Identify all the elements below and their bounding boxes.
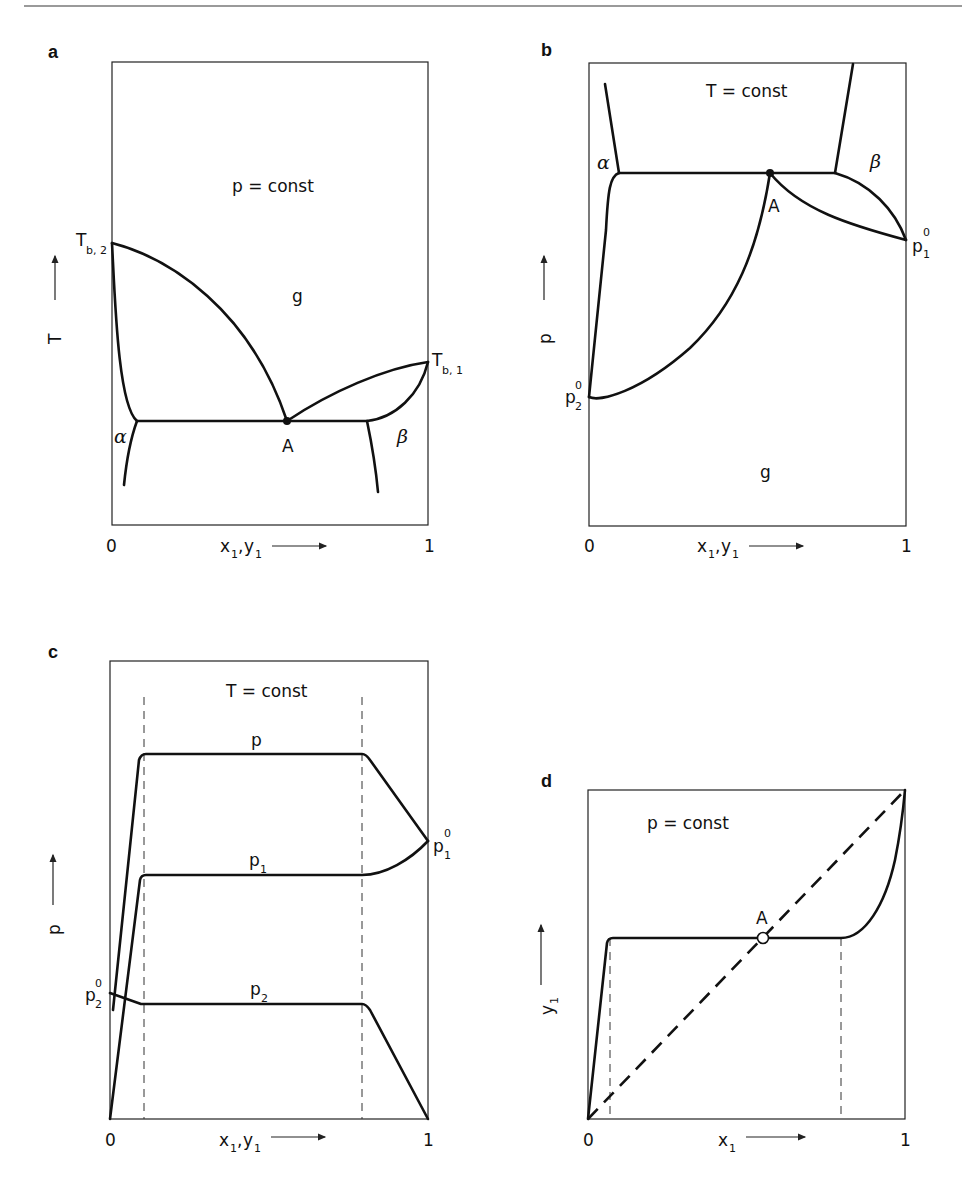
panel-letter-a: a bbox=[48, 42, 59, 62]
panel-letter-d: d bbox=[541, 771, 552, 791]
x-axis-sub-b: 1 bbox=[708, 548, 715, 561]
p1-zero-sup-c: 0 bbox=[444, 827, 451, 840]
panel-a: a p = const g A α β T b, 2 T b, 1 T 0 1 … bbox=[45, 42, 463, 561]
x-axis-label-a: x bbox=[220, 536, 230, 556]
x-axis-label-y-c: y bbox=[243, 1130, 253, 1150]
x-tick-1-d: 1 bbox=[900, 1130, 911, 1150]
condition-label-b: T = const bbox=[705, 81, 788, 101]
tb1-sub: b, 1 bbox=[442, 364, 463, 377]
x-axis-comma-c: , bbox=[237, 1130, 242, 1150]
point-label-b: A bbox=[768, 196, 780, 216]
condition-label-d: p = const bbox=[647, 813, 729, 833]
curve-label-p1-c: p bbox=[249, 850, 260, 870]
curve-p-c bbox=[113, 754, 428, 1010]
p2-zero-sub-c: 2 bbox=[95, 998, 102, 1011]
x-axis-y-sub-a: 1 bbox=[255, 548, 262, 561]
p1-zero-label-c: p bbox=[433, 836, 444, 856]
curve-p1-c bbox=[110, 841, 428, 1119]
x-tick-0-b: 0 bbox=[584, 536, 595, 556]
x-tick-0-a: 0 bbox=[106, 536, 117, 556]
condition-label-a: p = const bbox=[232, 176, 314, 196]
azeotrope-point-a bbox=[283, 417, 291, 425]
x-axis-comma-a: , bbox=[238, 536, 243, 556]
alpha-label-a: α bbox=[114, 425, 127, 447]
panel-letter-b: b bbox=[541, 40, 552, 60]
x-axis-y-sub-b: 1 bbox=[732, 548, 739, 561]
x-axis-sub-d: 1 bbox=[729, 1142, 736, 1155]
panel-c: c T = const p p 1 p 2 p 1 0 p 2 0 p 0 1 … bbox=[44, 642, 451, 1155]
beta-label-a: β bbox=[396, 425, 408, 447]
dew-curve-left-b bbox=[589, 173, 770, 398]
dew-curve-left-a bbox=[112, 243, 287, 421]
x-axis-sub-a: 1 bbox=[231, 548, 238, 561]
azeotrope-point-d bbox=[758, 933, 769, 944]
alpha-label-b: α bbox=[597, 151, 610, 173]
beta-upper-b bbox=[835, 64, 853, 173]
plot-frame-c bbox=[110, 661, 428, 1119]
x-tick-0-c: 0 bbox=[105, 1130, 116, 1150]
p1-zero-label-b: p bbox=[912, 236, 923, 256]
x-tick-1-a: 1 bbox=[424, 536, 435, 556]
plot-frame-a bbox=[112, 62, 428, 525]
condition-label-c: T = const bbox=[225, 681, 308, 701]
x-axis-label-c: x bbox=[219, 1130, 229, 1150]
x-tick-0-d: 0 bbox=[583, 1130, 594, 1150]
point-label-a: A bbox=[282, 436, 294, 456]
plot-frame-d bbox=[588, 790, 905, 1119]
x-axis-y-sub-c: 1 bbox=[254, 1142, 261, 1155]
panel-letter-c: c bbox=[48, 642, 58, 662]
azeotrope-point-b bbox=[766, 169, 774, 177]
x-axis-comma-b: , bbox=[715, 536, 720, 556]
p2-zero-sup-b: 0 bbox=[575, 379, 582, 392]
x-axis-label-b: x bbox=[697, 536, 707, 556]
curve-label-p1-sub-c: 1 bbox=[260, 863, 267, 876]
panel-d: d p = const A y 1 0 1 x 1 bbox=[537, 771, 911, 1155]
gas-region-label-a: g bbox=[292, 286, 303, 306]
x-tick-1-c: 1 bbox=[423, 1130, 434, 1150]
x-axis-label-y-a: y bbox=[244, 536, 254, 556]
panel-b: b T = const g A α β p 1 0 p 2 0 p 0 1 x … bbox=[535, 40, 930, 561]
diagonal-line-d bbox=[588, 790, 905, 1119]
dew-curve-right-a bbox=[287, 362, 428, 421]
x-tick-1-b: 1 bbox=[901, 536, 912, 556]
p1-zero-sub-c: 1 bbox=[444, 849, 451, 862]
gas-region-label-b: g bbox=[760, 462, 771, 482]
p1-zero-sub-b: 1 bbox=[923, 248, 930, 261]
curve-label-p-c: p bbox=[251, 730, 262, 750]
equilibrium-curve-d bbox=[588, 790, 905, 1119]
beta-solubility-a bbox=[367, 421, 378, 492]
p2-zero-sub-b: 2 bbox=[575, 400, 582, 413]
x-axis-sub-c: 1 bbox=[230, 1142, 237, 1155]
figure: a p = const g A α β T b, 2 T b, 1 T 0 1 … bbox=[0, 0, 962, 1188]
x-axis-label-y-b: y bbox=[721, 536, 731, 556]
curve-p2-c bbox=[110, 993, 428, 1119]
y-axis-label-c: p bbox=[44, 924, 64, 935]
alpha-lower-b bbox=[589, 173, 619, 397]
tb2-sub: b, 2 bbox=[86, 244, 107, 257]
y-axis-label-b: p bbox=[535, 333, 555, 344]
y-axis-label-a: T bbox=[45, 333, 65, 345]
plot-frame-b bbox=[589, 63, 906, 526]
curve-label-p2-sub-c: 2 bbox=[261, 992, 268, 1005]
point-label-d: A bbox=[756, 908, 768, 928]
p2-zero-sup-c: 0 bbox=[95, 977, 102, 990]
x-axis-label-d: x bbox=[718, 1130, 728, 1150]
y-axis-label-d: y bbox=[537, 1005, 557, 1015]
p1-zero-sup-b: 0 bbox=[923, 226, 930, 239]
beta-liquidus-a bbox=[367, 362, 428, 421]
curve-label-p2-c: p bbox=[250, 979, 261, 999]
beta-label-b: β bbox=[869, 150, 881, 172]
alpha-liquidus-a bbox=[112, 243, 137, 421]
y-axis-sub-d: 1 bbox=[548, 997, 561, 1004]
